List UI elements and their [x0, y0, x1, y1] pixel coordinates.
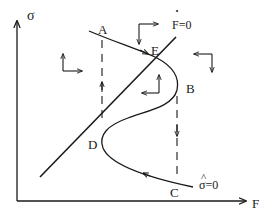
phase-diagram: σ F · F=0 ^ σ=0 A E B D C — [0, 0, 272, 214]
direction-indicator-down-right — [139, 24, 158, 44]
point-c-label: C — [170, 185, 179, 200]
point-b-label: B — [186, 81, 195, 96]
point-e-label: E — [151, 43, 159, 58]
f-dot-zero-label: F=0 — [172, 18, 191, 32]
point-d-label: D — [88, 137, 97, 152]
x-axis-label: F — [252, 196, 259, 211]
direction-indicator-up-left — [142, 75, 159, 93]
direction-indicator-down-left — [194, 54, 212, 72]
f-dot-mark: · — [175, 4, 179, 18]
point-a-label: A — [98, 22, 108, 37]
direction-indicator-up-right — [63, 54, 82, 71]
sigma-hat-zero-curve — [89, 31, 193, 187]
y-axis-label: σ — [27, 8, 35, 23]
sigma-hat-zero-label: σ=0 — [199, 178, 218, 192]
